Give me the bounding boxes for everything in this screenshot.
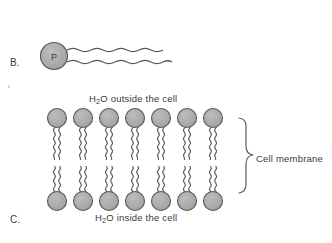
- phospholipid-upper-leaflet: [178, 109, 197, 161]
- phospholipid-upper-leaflet: [48, 109, 67, 161]
- phospholipid-molecule-b: P: [41, 43, 173, 70]
- fatty-acid-tail-icon: [157, 124, 159, 160]
- phosphate-head-icon: [126, 109, 145, 128]
- phosphate-head-icon: [100, 109, 119, 128]
- fatty-acid-tail-icon: [209, 124, 211, 160]
- fatty-acid-tail-lower-icon: [67, 60, 172, 63]
- phosphate-head-icon: [48, 109, 67, 128]
- phosphate-head-icon: [178, 109, 197, 128]
- figure-canvas: B. C. H2O outside the cell H2O inside th…: [0, 0, 332, 243]
- phosphate-head-icon: [48, 192, 67, 211]
- cell-membrane-brace: [239, 118, 253, 193]
- phosphate-head-icon: [204, 192, 223, 211]
- fatty-acid-tail-icon: [215, 124, 217, 160]
- phosphate-head-icon: [74, 192, 93, 211]
- phospholipid-lower-leaflet: [204, 166, 223, 211]
- fatty-acid-tail-icon: [53, 124, 55, 160]
- fatty-acid-tail-icon: [163, 124, 165, 160]
- phospholipid-lower-leaflet: [74, 166, 93, 211]
- phospholipid-lower-leaflet: [152, 166, 171, 211]
- phosphate-head-icon: [100, 192, 119, 211]
- fatty-acid-tail-icon: [111, 124, 113, 160]
- phospholipid-upper-leaflet: [100, 109, 119, 161]
- fatty-acid-tail-icon: [183, 124, 185, 160]
- phosphate-head-icon: [152, 192, 171, 211]
- phosphate-head-icon: [152, 109, 171, 128]
- fatty-acid-tail-icon: [131, 124, 133, 160]
- phospholipid-lower-leaflet: [48, 166, 67, 211]
- phosphate-head-icon: [204, 109, 223, 128]
- phosphate-head-icon: [178, 192, 197, 211]
- phospholipid-lower-leaflet: [178, 166, 197, 211]
- phosphate-head-icon: [126, 192, 145, 211]
- phospholipid-upper-leaflet: [204, 109, 223, 161]
- phospholipid-upper-leaflet: [74, 109, 93, 161]
- fatty-acid-tail-icon: [137, 124, 139, 160]
- phosphate-head-icon: [74, 109, 93, 128]
- phospholipid-upper-leaflet: [152, 109, 171, 161]
- phospholipid-bilayer: [48, 109, 223, 211]
- fatty-acid-tail-icon: [59, 124, 61, 160]
- phospholipid-lower-leaflet: [126, 166, 145, 211]
- phosphate-head-letter: P: [51, 52, 57, 62]
- phospholipid-upper-leaflet: [126, 109, 145, 161]
- fatty-acid-tail-upper-icon: [67, 48, 163, 51]
- fatty-acid-tail-icon: [105, 124, 107, 160]
- brace-icon: [239, 118, 253, 193]
- diagram-svg: P: [0, 0, 332, 243]
- phospholipid-lower-leaflet: [100, 166, 119, 211]
- fatty-acid-tail-icon: [85, 124, 87, 160]
- fatty-acid-tail-icon: [79, 124, 81, 160]
- fatty-acid-tail-icon: [189, 124, 191, 160]
